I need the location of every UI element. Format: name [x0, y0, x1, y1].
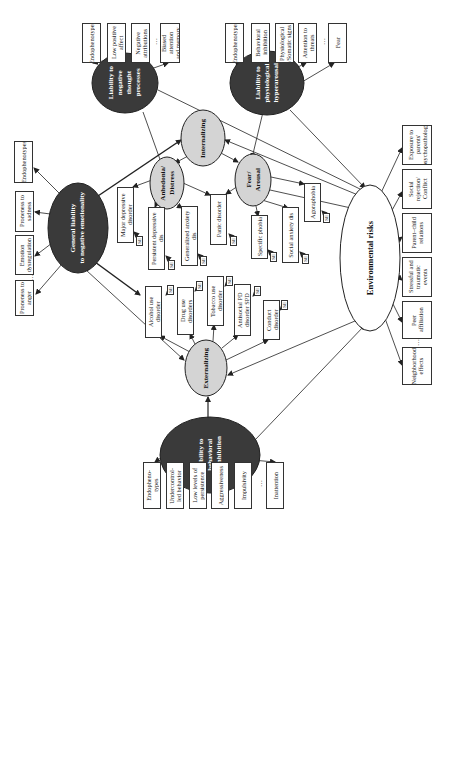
disorder-box: Drug use disorders [177, 287, 194, 335]
indicator-box: Behavioral inhibition [251, 23, 270, 63]
node-label: Environmental risks [365, 221, 375, 295]
indicator-box: Aggressiveness [211, 462, 229, 509]
environment-factor-box: Exposure to parents' psychopathology [402, 125, 432, 165]
environment-factor-box: Stressful and traumatic events [402, 257, 432, 297]
node-label: Internalizing [199, 119, 208, 158]
se-box: SE [196, 281, 203, 291]
indicator-box: Proneness to sadness [15, 191, 34, 232]
ellipsis: … [256, 480, 264, 487]
indicator-box: Endophenotypes [225, 23, 244, 63]
node-label: Fear/ Arousal [245, 168, 262, 192]
internalizing-node: Internalizing [181, 110, 225, 166]
se-box: SE [168, 260, 175, 270]
indicator-box: Biased attention and memory [160, 23, 180, 63]
indicator-box: Impulsivity [234, 462, 252, 509]
disorder-box: Antisocial PD disorder SPD [234, 284, 251, 336]
se-box: SE [200, 256, 207, 266]
disorder-box: Tobacco use disorder [207, 276, 224, 326]
indicator-box: Inattention [266, 462, 284, 509]
indicator-box: Fear [328, 23, 347, 63]
environment-factor-box: Neighborhood effects [402, 347, 432, 385]
indicator-box: Endophenotypes [82, 23, 101, 63]
indicator-box: Undercontrol- led behavior [166, 462, 184, 509]
indicator-box: Low positive affect [107, 23, 126, 63]
se-box: SE [254, 286, 261, 296]
disorder-box: Conduct disorder [263, 300, 280, 340]
se-box: SE [302, 254, 309, 264]
node-label: General liability to negative emotionali… [69, 192, 87, 264]
se-box: SE [226, 276, 233, 286]
disorder-box: Panic disorder [210, 194, 227, 245]
disorder-box: Alcohol use disorder [145, 286, 162, 338]
ellipsis: … [151, 38, 159, 45]
ellipsis: … [413, 339, 421, 346]
indicator-box: Endophenotypes [14, 141, 33, 183]
node-label: Liability to negative thought processes [107, 66, 143, 99]
disorder-box: Specific phobia [251, 215, 268, 259]
anhedonia-distress-node: Anhedonia/ Distress [150, 157, 184, 209]
indicator-box: Physiological /Somatic signs [275, 23, 294, 63]
node-label: Liability to physiological hyperarousal [254, 63, 281, 103]
indicator-box: Low levels of persistence [189, 462, 207, 509]
environment-factor-box: Social rejection/ Conflict [402, 169, 432, 209]
indicator-box: Attention to threats [298, 23, 317, 63]
indicator-box: Negative attributions [131, 23, 150, 63]
disorder-box: Social anxiety dis [282, 207, 299, 263]
ellipsis: … [319, 38, 327, 45]
se-box: SE [167, 285, 174, 295]
se-box: SE [281, 300, 288, 310]
fear-arousal-node: Fear/ Arousal [235, 154, 271, 206]
node-label: Anhedonia/ Distress [159, 166, 176, 201]
general-liability-node: General liability to negative emotionali… [48, 183, 108, 273]
se-box: SE [270, 252, 277, 262]
disorder-box: Persistent depressive dis [148, 207, 165, 270]
se-box: SE [136, 236, 143, 246]
indicator-box: Proneness to anger [15, 280, 34, 316]
disorder-box: Agoraphobia [304, 183, 321, 222]
environmental-risks-node: Environmental risks [340, 185, 400, 331]
se-box: SE [323, 213, 330, 223]
disorder-box: Major depressive disorder [117, 187, 134, 243]
se-box: SE [230, 236, 237, 246]
disorder-box: Generalized anxiety dis [181, 206, 198, 266]
indicator-box: Endopheno- types [143, 462, 161, 509]
environment-factor-box: Peer affiliation [402, 301, 432, 339]
externalizing-node: Externalizing [185, 340, 227, 396]
environment-factor-box: Parent–child relations [402, 213, 432, 253]
diagram-canvas: Liability to negative thought processes … [0, 0, 449, 774]
node-label: Externalizing [202, 348, 211, 388]
indicator-box: Emotion dysregulation [15, 235, 34, 275]
